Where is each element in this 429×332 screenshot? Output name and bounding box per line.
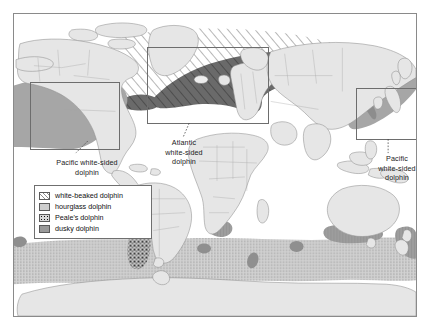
map-legend: white-beaked dolphin hourglass dolphin P… <box>34 185 152 239</box>
land-tasmania <box>366 238 375 248</box>
inset-north-west-pacific <box>356 88 417 140</box>
range-hourglass-dolphin <box>14 237 416 285</box>
land-antarctica <box>17 278 416 316</box>
land-arctic-islands-3 <box>108 39 135 49</box>
land-tierra-del-fuego <box>153 258 163 267</box>
callout-pacific-white-sided-west: Pacific white-sided dolphin <box>41 158 133 177</box>
legend-label-hourglass-dolphin: hourglass dolphin <box>55 203 111 210</box>
callout-pacific-white-sided-east: Pacific white-sided dolphin <box>369 154 417 183</box>
range-hourglass-island-c <box>290 241 304 252</box>
legend-swatch-hourglass-dolphin <box>39 203 50 211</box>
legend-swatch-dusky-dolphin <box>39 225 50 233</box>
land-arctic-canada <box>95 23 146 38</box>
land-madagascar <box>257 199 269 223</box>
distribution-map-figure: Pacific white-sided dolphin Atlantic whi… <box>0 0 429 332</box>
map-frame: Pacific white-sided dolphin Atlantic whi… <box>13 13 417 317</box>
land-arctic-islands-2 <box>69 29 98 41</box>
legend-item-peales-dolphin: Peale's dolphin <box>39 212 146 223</box>
legend-item-hourglass-dolphin: hourglass dolphin <box>39 201 146 212</box>
inset-north-east-pacific <box>30 82 120 150</box>
land-australia <box>327 185 399 236</box>
legend-label-dusky-dolphin: dusky dolphin <box>55 225 99 232</box>
land-alaska <box>16 57 53 72</box>
legend-swatch-peales-dolphin <box>39 214 50 222</box>
legend-label-white-beaked-dolphin: white-beaked dolphin <box>55 192 123 199</box>
legend-label-peales-dolphin: Peale's dolphin <box>55 214 104 221</box>
land-caribbean-2 <box>150 169 160 176</box>
inset-north-atlantic <box>147 47 269 124</box>
legend-item-dusky-dolphin: dusky dolphin <box>39 223 146 234</box>
legend-item-white-beaked-dolphin: white-beaked dolphin <box>39 190 146 201</box>
legend-swatch-white-beaked-dolphin <box>39 192 50 200</box>
range-hourglass-island-a <box>197 243 211 253</box>
callout-atlantic-white-sided: Atlantic white-sided dolphin <box>156 138 212 167</box>
